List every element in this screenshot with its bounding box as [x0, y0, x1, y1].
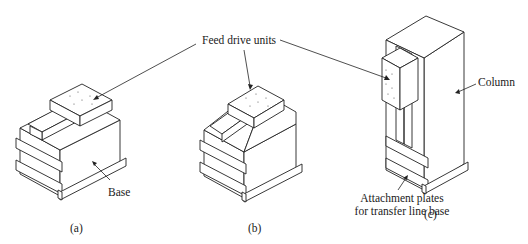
label-column: Column: [478, 76, 515, 89]
caption-b: (b): [248, 222, 261, 235]
base-unit-a: [16, 84, 126, 200]
feed-drive-leaders: [93, 40, 390, 100]
label-feed-drive-units: Feed drive units: [202, 34, 276, 47]
caption-c: (c): [424, 208, 437, 221]
label-attachment-line2: for transfer line base: [342, 205, 462, 218]
caption-a: (a): [70, 222, 83, 235]
column-unit-c: [382, 16, 476, 194]
label-attachment-line1: Attachment plates: [342, 192, 462, 205]
label-base: Base: [108, 186, 130, 199]
label-attachment-plates: Attachment plates for transfer line base: [342, 192, 462, 217]
base-unit-b: [200, 86, 302, 202]
diagram-canvas: Feed drive units Base Column Attachment …: [0, 0, 528, 244]
